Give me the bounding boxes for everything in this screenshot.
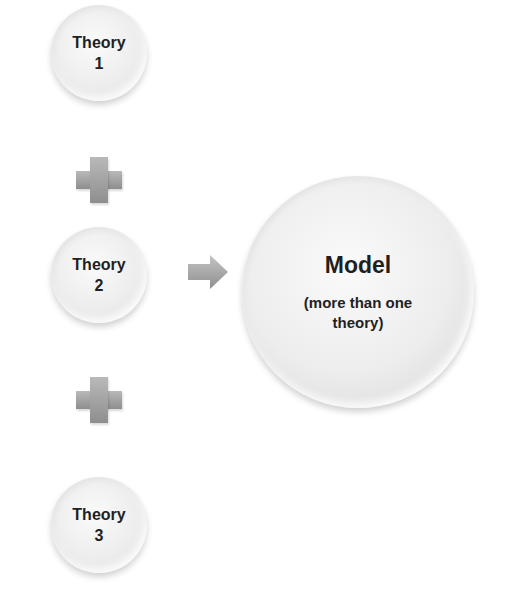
model-subtitle-line1: (more than one <box>304 293 412 313</box>
theory-1-circle: Theory 1 <box>51 5 147 101</box>
theory-2-circle: Theory 2 <box>51 227 147 323</box>
theory-3-circle: Theory 3 <box>51 477 147 573</box>
theory-number: 3 <box>95 525 104 546</box>
theory-label: Theory <box>72 504 125 525</box>
plus-icon <box>76 377 122 423</box>
plus-icon <box>76 157 122 203</box>
model-title: Model <box>325 252 391 279</box>
theory-label: Theory <box>72 254 125 275</box>
theory-number: 1 <box>95 53 104 74</box>
model-circle: Model (more than one theory) <box>242 176 474 408</box>
theory-label: Theory <box>72 32 125 53</box>
model-subtitle-line2: theory) <box>333 313 384 333</box>
right-arrow-icon <box>188 255 228 289</box>
theory-number: 2 <box>95 275 104 296</box>
